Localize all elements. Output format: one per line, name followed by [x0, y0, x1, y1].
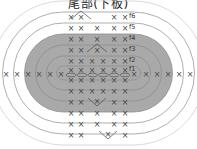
single-crochet-symbol: × [100, 76, 107, 85]
single-crochet-symbol: × [122, 13, 129, 22]
single-crochet-symbol: × [78, 120, 85, 129]
single-crochet-symbol: × [94, 46, 101, 55]
round-label: f6 [129, 12, 135, 20]
single-crochet-symbol: × [68, 120, 75, 129]
single-crochet-symbol: × [111, 46, 118, 55]
single-crochet-symbol: × [78, 24, 85, 33]
single-crochet-symbol: × [78, 87, 85, 96]
single-crochet-symbol: × [94, 24, 101, 33]
single-crochet-symbol: × [47, 70, 54, 79]
single-crochet-symbol: × [78, 98, 85, 107]
single-crochet-symbol: × [105, 130, 112, 139]
crochet-chart: ××××××××××××××××××××××××××××××××××××××××… [0, 0, 197, 149]
single-crochet-symbol: × [89, 57, 96, 66]
single-crochet-symbol: × [122, 87, 129, 96]
single-crochet-symbol: × [36, 70, 43, 79]
round-label: f5 [129, 23, 135, 31]
single-crochet-symbol: × [122, 98, 129, 107]
single-crochet-symbol: × [111, 57, 118, 66]
single-crochet-symbol: × [68, 87, 75, 96]
single-crochet-symbol: × [3, 70, 10, 79]
single-crochet-symbol: × [68, 109, 75, 118]
single-crochet-symbol: × [78, 57, 85, 66]
single-crochet-symbol: × [111, 120, 118, 129]
single-crochet-symbol: × [122, 24, 129, 33]
single-crochet-symbol: × [68, 76, 75, 85]
single-crochet-symbol: × [14, 70, 21, 79]
single-crochet-symbol: × [187, 70, 194, 79]
single-crochet-symbol: × [100, 87, 107, 96]
single-crochet-symbol: × [68, 35, 75, 44]
round-label: f3 [129, 45, 135, 53]
single-crochet-symbol: × [111, 13, 118, 22]
single-crochet-symbol: × [122, 57, 129, 66]
single-crochet-symbol: × [78, 109, 85, 118]
single-crochet-symbol: × [78, 76, 85, 85]
single-crochet-symbol: × [68, 98, 75, 107]
single-crochet-symbol: × [111, 109, 118, 118]
single-crochet-symbol: × [68, 57, 75, 66]
single-crochet-symbol: × [122, 46, 129, 55]
single-crochet-symbol: × [68, 24, 75, 33]
single-crochet-symbol: × [122, 76, 129, 85]
single-crochet-symbol: × [89, 76, 96, 85]
single-crochet-symbol: × [122, 109, 129, 118]
single-crochet-symbol: × [111, 24, 118, 33]
single-crochet-symbol: × [68, 131, 75, 140]
single-crochet-symbol: × [89, 87, 96, 96]
single-crochet-symbol: × [78, 46, 85, 55]
single-crochet-symbol: × [176, 70, 183, 79]
single-crochet-symbol: × [94, 35, 101, 44]
round-label: f4 [129, 34, 135, 42]
single-crochet-symbol: × [154, 70, 161, 79]
single-crochet-symbol: × [68, 46, 75, 55]
single-crochet-symbol: × [111, 76, 118, 85]
single-crochet-symbol: × [122, 131, 129, 140]
single-crochet-symbol: × [122, 35, 129, 44]
single-crochet-symbol: × [111, 87, 118, 96]
single-crochet-symbol: × [111, 98, 118, 107]
single-crochet-symbol: × [122, 120, 129, 129]
single-crochet-symbol: × [25, 70, 32, 79]
single-crochet-symbol: × [78, 131, 85, 140]
single-crochet-symbol: × [111, 35, 118, 44]
round-label: f2 [129, 56, 135, 64]
single-crochet-symbol: × [100, 57, 107, 66]
single-crochet-symbol: × [94, 109, 101, 118]
single-crochet-symbol: × [94, 120, 101, 129]
single-crochet-symbol: × [143, 70, 150, 79]
single-crochet-symbol: × [165, 70, 172, 79]
single-crochet-symbol: × [58, 70, 65, 79]
single-crochet-symbol: × [94, 97, 101, 106]
single-crochet-symbol: × [78, 13, 85, 22]
single-crochet-symbol: × [78, 35, 85, 44]
round-label: f1 [129, 65, 135, 73]
